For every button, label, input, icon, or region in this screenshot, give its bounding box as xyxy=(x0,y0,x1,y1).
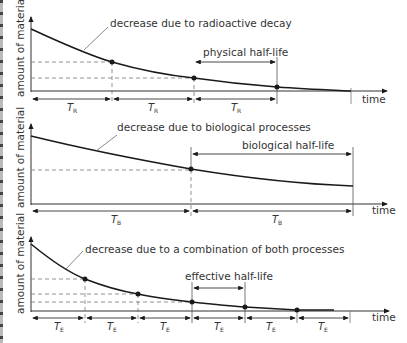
svg-text:TB: TB xyxy=(111,214,121,226)
halflife-label: effective half-life xyxy=(185,270,273,282)
svg-text:TE: TE xyxy=(54,321,64,333)
half-life-diagram: amount of material time decrease due to … xyxy=(0,0,407,343)
panel-radioactive: amount of material time decrease due to … xyxy=(14,0,387,114)
y-axis-label: amount of material xyxy=(14,0,26,97)
x-axis-label: time xyxy=(372,311,396,323)
page-edge-strip xyxy=(0,0,3,343)
interval-labels: TR TR TR xyxy=(67,102,241,114)
halflife-label: physical half-life xyxy=(203,46,288,58)
interval-labels: TE TE TE TE TE TE xyxy=(54,321,328,333)
y-axis-label: amount of material xyxy=(14,107,26,208)
svg-text:TE: TE xyxy=(107,321,117,333)
curve-label: decrease due to a combination of both pr… xyxy=(85,243,344,255)
panel-effective: amount of material time decrease due to … xyxy=(14,213,396,333)
data-point xyxy=(275,85,280,90)
interval-labels: TB TB xyxy=(111,214,282,226)
data-point xyxy=(243,305,248,310)
y-axis-label: amount of material xyxy=(14,213,26,314)
data-point xyxy=(110,60,115,65)
svg-text:TE: TE xyxy=(160,321,170,333)
data-point xyxy=(295,308,300,313)
label-leader xyxy=(84,27,108,50)
panel-biological: amount of material time decrease due to … xyxy=(14,107,396,226)
svg-text:TE: TE xyxy=(318,321,328,333)
guide-lines xyxy=(31,170,191,216)
x-axis-label: time xyxy=(372,204,396,216)
halflife-label: biological half-life xyxy=(242,139,334,151)
x-axis-label: time xyxy=(362,93,386,105)
data-point xyxy=(136,292,141,297)
decay-curve xyxy=(31,29,351,91)
svg-text:TR: TR xyxy=(148,102,158,114)
svg-text:TR: TR xyxy=(231,102,241,114)
guide-lines xyxy=(31,62,194,104)
data-point xyxy=(83,277,88,282)
label-leader xyxy=(96,135,117,151)
svg-text:TE: TE xyxy=(266,321,276,333)
label-leader xyxy=(66,251,83,269)
curve-label: decrease due to radioactive decay xyxy=(110,17,292,29)
svg-text:TB: TB xyxy=(272,214,282,226)
svg-text:TE: TE xyxy=(214,321,224,333)
curve-label: decrease due to biological processes xyxy=(117,121,311,133)
guide-lines xyxy=(31,279,192,323)
data-point xyxy=(190,300,195,305)
svg-text:TR: TR xyxy=(67,102,77,114)
data-point xyxy=(192,76,197,81)
data-point xyxy=(189,167,194,172)
